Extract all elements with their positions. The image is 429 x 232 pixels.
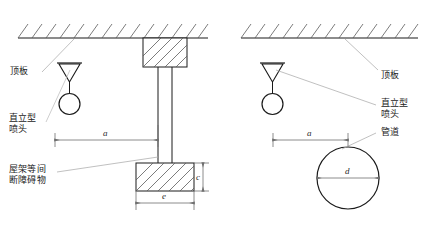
ceiling-slab-left [18,24,208,38]
label-pipe-right: 管道 [381,127,399,138]
label-sprinkler-right-line2: 喷头 [381,109,399,120]
label-sprinkler-right-line1: 直立型 [381,98,409,109]
leader-ceiling-right [345,39,378,70]
dimension-label-a-right: a [307,128,312,138]
label-obstacle-line2: 断障碍物 [9,175,46,186]
label-obstacle-line1: 屋架等间 [9,164,46,175]
dimension-label-c: c [196,172,200,182]
label-ceiling-left: 顶板 [10,66,28,77]
upright-sprinkler-right [260,63,285,115]
diagram-vector-layer [0,0,429,232]
beam-column-left [158,67,172,163]
leader-pipe-right [342,133,376,149]
ceiling-slab-right [241,24,418,38]
label-sprinkler-left-line1: 直立型 [9,113,37,124]
dimension-label-e: e [162,191,166,201]
upper-hatched-block-left [143,38,187,67]
lower-hatched-block-left [136,163,194,191]
leader-sprinkler-right [276,70,376,105]
label-ceiling-right: 顶板 [381,70,399,81]
dimension-label-d: d [345,166,350,176]
diagram-canvas: 顶板 直立型 喷头 屋架等间 断障碍物 a c e 顶板 直立型 喷头 管道 a… [0,0,429,232]
label-sprinkler-left-line2: 喷头 [9,124,27,135]
dimension-label-a-left: a [103,128,108,138]
